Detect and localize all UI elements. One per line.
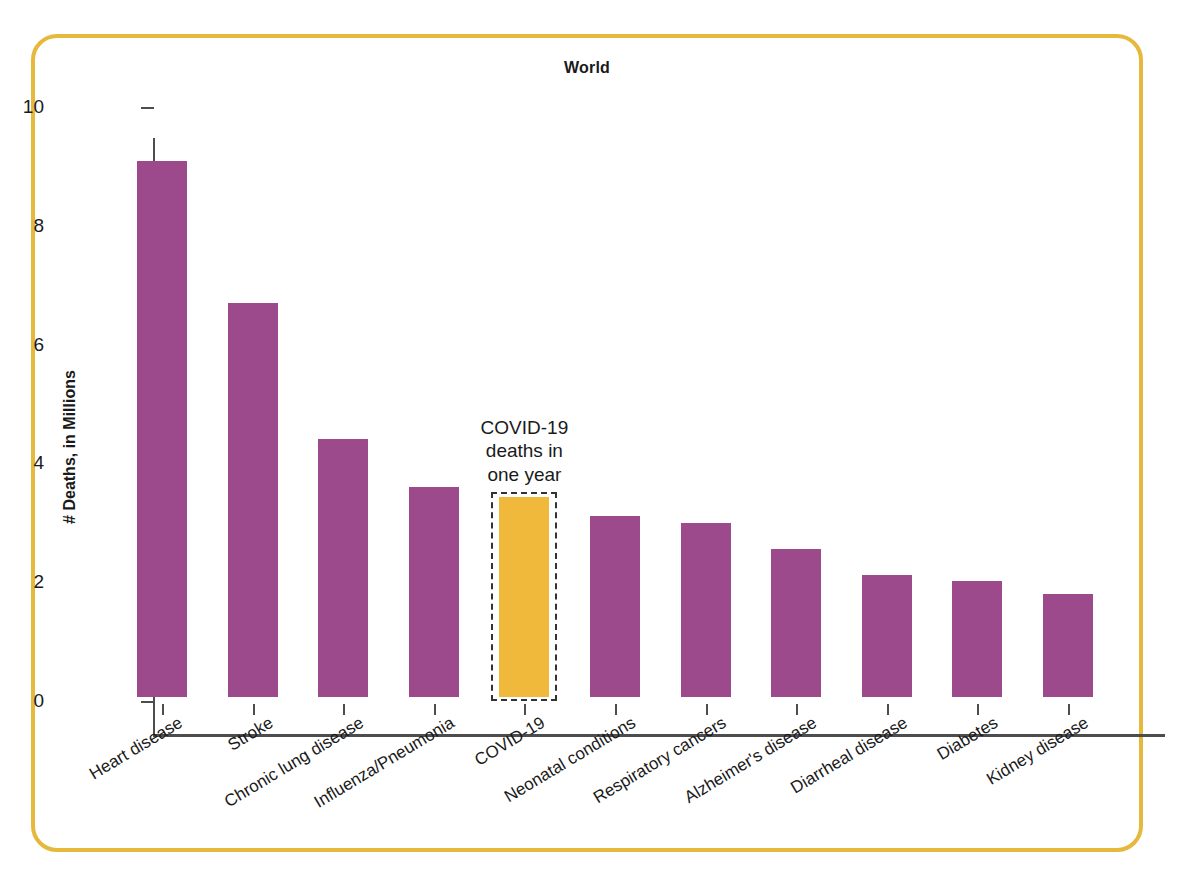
- bar-diabetes: [952, 581, 1002, 697]
- annotation-line-2: one year: [453, 463, 595, 487]
- covid-highlight-box: [491, 492, 557, 701]
- annotation-line-0: COVID-19: [453, 416, 595, 440]
- bar-stroke: [228, 303, 278, 697]
- y-tick-label: 4: [0, 452, 44, 474]
- x-tick-mark: [706, 704, 708, 715]
- bar-alzheimer-s-disease: [771, 549, 821, 697]
- y-tick-label: 6: [0, 334, 44, 356]
- annotation-line-1: deaths in: [453, 439, 595, 463]
- bar-neonatal-conditions: [590, 516, 640, 697]
- x-label-text: Stroke: [224, 713, 276, 755]
- covid-annotation: COVID-19deaths inone year: [453, 416, 595, 487]
- figure-frame: World # Deaths, in Millions 0246810 Hear…: [31, 34, 1143, 852]
- bar-kidney-disease: [1043, 594, 1093, 697]
- x-tick-mark: [615, 704, 617, 715]
- x-tick-mark: [343, 704, 345, 715]
- bar-heart-disease: [137, 161, 187, 697]
- y-tick-mark: [141, 701, 154, 703]
- y-tick-label: 2: [0, 571, 44, 593]
- x-tick-mark: [887, 704, 889, 715]
- x-label-text: COVID-19: [471, 713, 549, 771]
- bar-respiratory-cancers: [681, 523, 731, 697]
- y-axis-title: # Deaths, in Millions: [61, 207, 79, 687]
- x-tick-mark: [977, 704, 979, 715]
- x-axis-line: [153, 734, 1165, 737]
- x-label-text: Diabetes: [934, 713, 1002, 765]
- x-tick-mark: [796, 704, 798, 715]
- plot-area: # Deaths, in Millions 0246810 Heart dise…: [35, 38, 1139, 848]
- bar-diarrheal-disease: [862, 575, 912, 697]
- x-tick-mark: [524, 704, 526, 715]
- x-tick-mark: [1068, 704, 1070, 715]
- y-tick-label: 10: [0, 96, 44, 118]
- y-tick-label: 8: [0, 215, 44, 237]
- bar-chronic-lung-disease: [318, 439, 368, 697]
- x-tick-mark: [253, 704, 255, 715]
- x-tick-mark: [162, 704, 164, 715]
- y-tick-label: 0: [0, 690, 44, 712]
- x-tick-mark: [434, 704, 436, 715]
- bar-influenza-pneumonia: [409, 487, 459, 697]
- x-label-text: Kidney disease: [983, 713, 1092, 790]
- y-tick-mark: [141, 107, 154, 109]
